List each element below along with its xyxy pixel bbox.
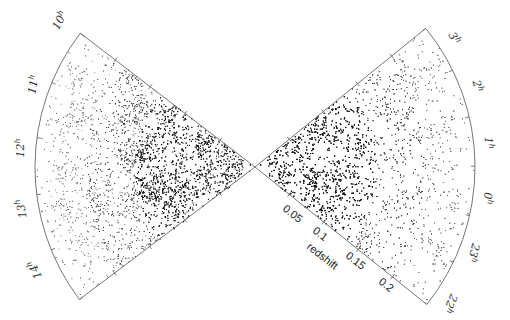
ra-label-left: 10h — [49, 8, 70, 31]
ra-label-right: 22h — [440, 291, 461, 315]
ra-label-left: 13h — [13, 198, 30, 219]
redshift-tick — [391, 275, 395, 280]
redshift-axis-label: redshift — [305, 240, 341, 272]
hour-tick — [80, 33, 83, 36]
cone-diagram: 10h11h12h13h14h3h2h1h0h23h22h0.050.10.15… — [0, 0, 510, 320]
hour-tick — [52, 83, 56, 85]
hour-tick — [449, 70, 453, 72]
redshift-tick-label: 0.05 — [281, 202, 305, 225]
hour-tick — [424, 302, 427, 305]
hour-tick — [51, 248, 55, 250]
redshift-tick — [148, 244, 152, 249]
ra-label-right: 23h — [465, 241, 484, 264]
left-wedge-outline — [35, 33, 255, 299]
ra-label-right: 3h — [445, 29, 463, 47]
redshift-tick — [288, 192, 292, 197]
ra-label-right: 0h — [480, 192, 495, 205]
redshift-tick — [148, 84, 152, 89]
hour-tick — [423, 28, 426, 31]
wedge-frames — [35, 28, 475, 304]
ra-label-left: 11h — [25, 74, 42, 95]
hour-tick — [37, 138, 41, 139]
hour-tick — [37, 194, 41, 195]
hour-tick — [450, 261, 454, 263]
left-wedge-galaxies — [37, 36, 251, 295]
hour-tick — [465, 117, 469, 118]
redshift-tick — [113, 58, 117, 63]
hour-tick — [79, 297, 82, 299]
ra-label-right: 1h — [482, 137, 496, 150]
ra-label-left: 14h — [24, 258, 45, 281]
ra-label-left: 12h — [13, 138, 27, 157]
redshift-tick — [218, 191, 222, 196]
axis-labels: 10h11h12h13h14h3h2h1h0h23h22h0.050.10.15… — [13, 8, 497, 315]
redshift-tick — [113, 271, 117, 276]
redshift-tick — [218, 138, 222, 143]
ra-label-right: 2h — [469, 77, 486, 93]
hour-tick — [466, 215, 470, 216]
